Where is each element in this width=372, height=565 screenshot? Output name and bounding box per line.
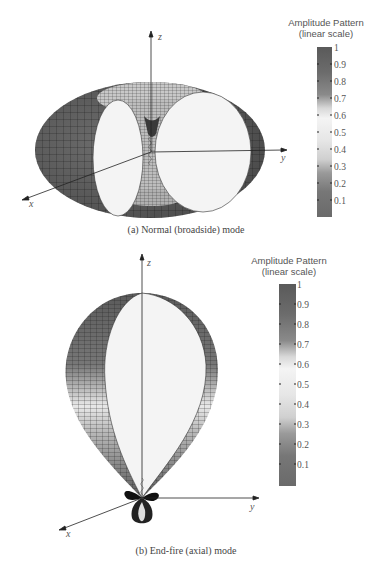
colorbar-tick: 0.4	[297, 400, 309, 410]
x-axis-label: x	[29, 198, 33, 209]
colorbar-tick: 0.8	[297, 320, 309, 330]
colorbar-tick: 0.1	[297, 460, 309, 470]
z-axis-label: z	[147, 257, 151, 268]
colorbar-tick: 0.6	[297, 360, 309, 370]
caption-b: (b) End-fire (axial) mode	[0, 545, 372, 556]
endfire-pattern-plot	[0, 240, 372, 565]
colorbar-tick: 0.9	[297, 300, 309, 310]
figure-a-normal-mode: z y x Amplitude Pattern (linear scale) 1…	[0, 0, 372, 240]
figure-b-endfire-mode: z y x Amplitude Pattern (linear scale) 1…	[0, 240, 372, 565]
colorbar-tick: 0.6	[334, 111, 346, 121]
x-axis-label: x	[66, 528, 70, 539]
colorbar-tick: 0.7	[297, 340, 309, 350]
colorbar-tick: 0.8	[334, 77, 346, 87]
colorbar-tick: 0.4	[334, 145, 346, 155]
colorbar-tick: 0.3	[297, 420, 309, 430]
colorbar-tick: 1	[297, 280, 302, 290]
colorbar-tick: 0.5	[297, 380, 309, 390]
y-axis-label: y	[250, 501, 254, 512]
colorbar-tick: 0.2	[334, 179, 346, 189]
colorbar-b	[279, 284, 296, 486]
colorbar-a	[317, 47, 332, 217]
caption-a: (a) Normal (broadside) mode	[0, 224, 372, 235]
colorbar-tick: 0.1	[334, 196, 346, 206]
z-axis-label: z	[158, 31, 162, 42]
cut-face-lobes	[93, 92, 251, 216]
colorbar-tick: 1	[334, 43, 339, 53]
colorbar-title-a: Amplitude Pattern (linear scale)	[280, 17, 372, 39]
colorbar-title-b: Amplitude Pattern (linear scale)	[243, 255, 335, 277]
colorbar-tick: 0.5	[334, 128, 346, 138]
colorbar-tick: 0.7	[334, 94, 346, 104]
colorbar-tick: 0.9	[334, 60, 346, 70]
y-axis-label: y	[281, 152, 285, 163]
colorbar-tick: 0.2	[297, 440, 309, 450]
colorbar-tick: 0.3	[334, 162, 346, 172]
